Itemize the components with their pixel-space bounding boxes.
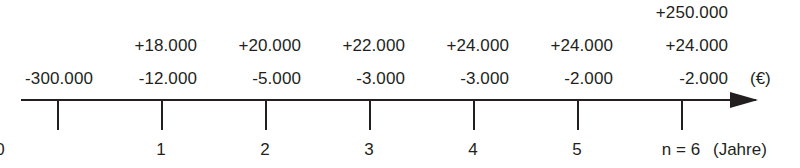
timeline-axis-arrow-icon <box>730 92 758 108</box>
axis-unit-currency-label: (€) <box>750 70 771 88</box>
period-column-6: +250.000 +24.000 -2.000 n = 6 <box>578 0 728 168</box>
axis-unit-time-label: (Jahre) <box>713 140 767 159</box>
cashflow-inflow-6: +24.000 <box>578 37 728 55</box>
cash-flow-timeline-diagram: -300.000 0 +18.000 -12.000 1 +20.000 -5.… <box>0 0 800 168</box>
cashflow-residual-6: +250.000 <box>578 4 728 22</box>
cashflow-outflow-6: -2.000 <box>578 70 728 88</box>
